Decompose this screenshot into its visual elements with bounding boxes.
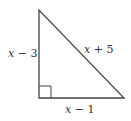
hypotenuse-label: x + 5 <box>84 43 113 56</box>
right-angle-marker <box>39 86 51 98</box>
bottom-leg-label: x − 1 <box>65 103 94 116</box>
triangle-diagram: x − 3 x + 5 x − 1 <box>0 0 131 121</box>
left-leg-label: x − 3 <box>8 47 37 60</box>
